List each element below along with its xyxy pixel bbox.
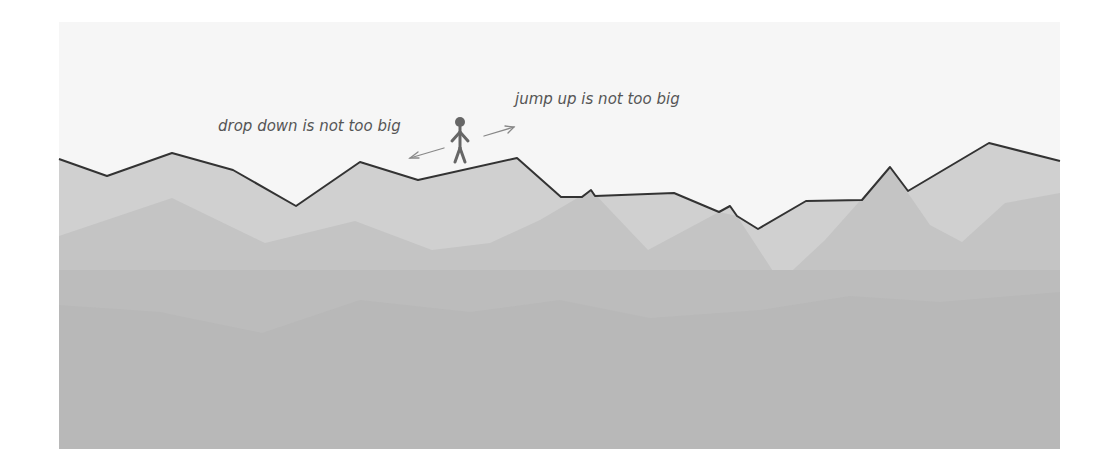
- jump-up-label: jump up is not too big: [513, 90, 680, 108]
- terrain-diagram: drop down is not too big jump up is not …: [0, 0, 1112, 468]
- drop-down-label: drop down is not too big: [218, 117, 401, 135]
